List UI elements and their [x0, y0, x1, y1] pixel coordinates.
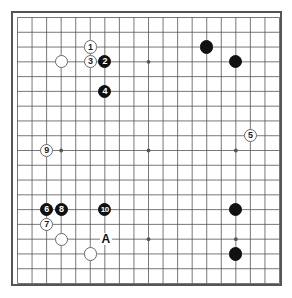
stone-move-number: 10 [101, 206, 109, 214]
go-stone-white[interactable] [55, 233, 68, 246]
go-stone-white-move-7[interactable]: 7 [40, 218, 53, 231]
stone-move-number: 8 [59, 205, 64, 214]
board-marker-a[interactable]: A [100, 233, 112, 245]
go-stone-white-move-1[interactable]: 1 [84, 40, 97, 53]
star-point [147, 237, 151, 241]
go-stone-black[interactable] [229, 247, 242, 260]
go-stone-white[interactable] [84, 247, 97, 260]
stone-move-number: 7 [44, 220, 49, 229]
star-point [147, 60, 151, 64]
go-board[interactable]: 13245968107 A [11, 11, 282, 286]
board-grid [13, 13, 284, 288]
star-point [59, 149, 63, 153]
go-stone-black-move-8[interactable]: 8 [55, 203, 68, 216]
star-point [234, 149, 238, 153]
star-point [147, 149, 151, 153]
go-diagram: 13245968107 A [0, 0, 292, 298]
stone-move-number: 3 [88, 57, 93, 66]
stone-move-number: 4 [103, 87, 108, 96]
stone-move-number: 9 [44, 146, 49, 155]
stone-move-number: 2 [103, 57, 108, 66]
star-point [234, 237, 238, 241]
go-stone-black[interactable] [200, 40, 213, 53]
stone-move-number: 5 [248, 131, 253, 140]
stone-move-number: 1 [88, 43, 93, 52]
stone-move-number: 6 [44, 205, 49, 214]
